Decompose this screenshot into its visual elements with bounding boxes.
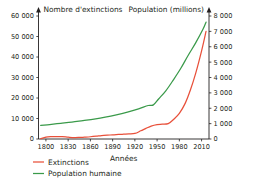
right-tick-label: 8 000 [214,12,233,20]
right-tick-label: 5 000 [214,59,233,67]
chart-svg: 010 00020 00030 00040 00050 00060 000 01… [0,0,253,188]
left-axis-ticks: 010 00020 00030 00040 00050 00060 000 [11,12,39,143]
legend-label-extinctions: Extinctions [48,158,89,167]
x-tick-label: 1980 [171,143,188,151]
right-axis-ticks: 01 0002 0003 0004 0005 0006 0007 0008 00… [209,12,232,143]
x-tick-label: 1800 [38,143,55,151]
data-series-group [41,22,206,138]
right-tick-label: 4 000 [214,74,233,82]
x-axis-ticks: 18001830186018901920195019802010 [38,139,210,151]
x-tick-label: 1830 [60,143,77,151]
right-tick-label: 3 000 [214,89,233,97]
x-tick-label: 2010 [193,143,210,151]
right-tick-label: 0 [214,135,218,143]
left-tick-label: 20 000 [11,94,34,102]
left-tick-label: 60 000 [11,12,34,20]
left-tick-label: 0 [30,135,34,143]
chart-figure: 010 00020 00030 00040 00050 00060 000 01… [0,0,253,188]
right-axis-title: Population (millions) [129,5,205,14]
right-tick-label: 1 000 [214,120,233,128]
chart-legend: ExtinctionsPopulation humaine [33,158,122,179]
left-axis-arrow-icon [36,7,41,13]
right-axis-arrow-icon [207,7,212,13]
axes-group [36,7,211,139]
x-axis-title: Années [110,154,138,163]
left-tick-label: 50 000 [11,33,34,41]
right-tick-label: 7 000 [214,28,233,36]
left-axis-title: Nombre d'extinctions [44,5,123,14]
x-tick-label: 1950 [149,143,166,151]
left-tick-label: 30 000 [11,74,34,82]
legend-label-population-humaine: Population humaine [48,169,122,178]
left-tick-label: 40 000 [11,53,34,61]
right-tick-label: 2 000 [214,105,233,113]
x-tick-label: 1860 [82,143,99,151]
left-tick-label: 10 000 [11,115,34,123]
x-tick-label: 1890 [104,143,121,151]
right-tick-label: 6 000 [214,43,233,51]
x-tick-label: 1920 [126,143,143,151]
